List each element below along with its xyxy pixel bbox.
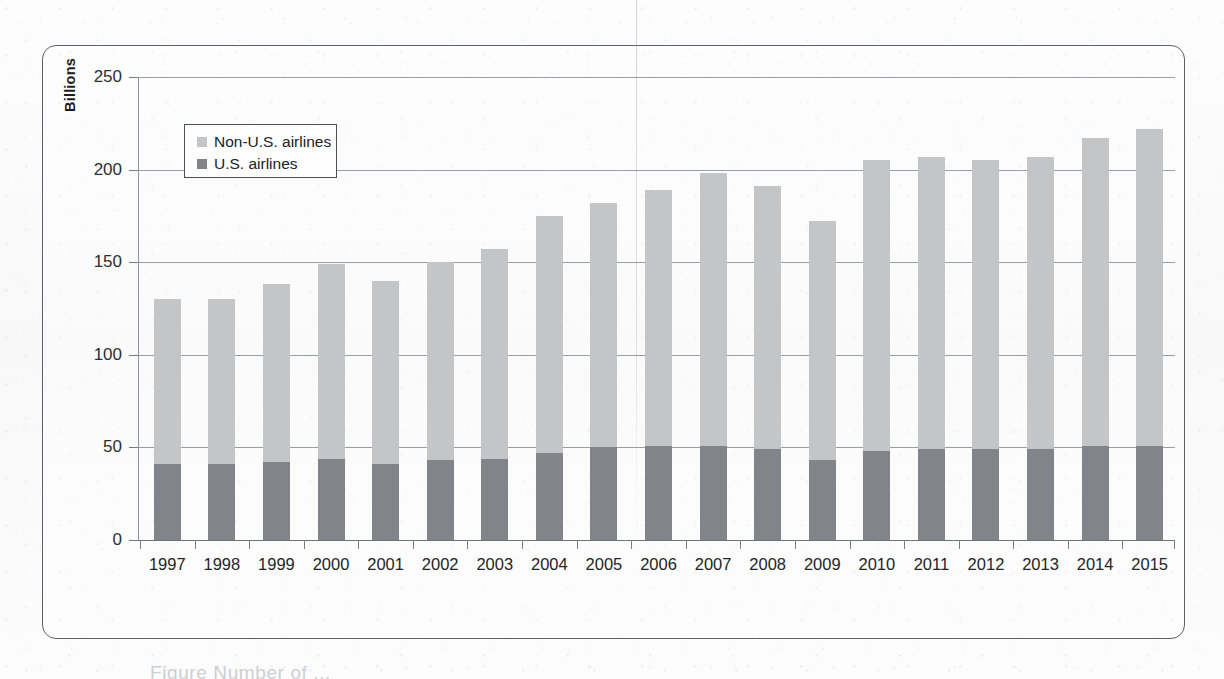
gridline-250 [138, 77, 1175, 78]
bar-segment-us-2003[interactable] [481, 459, 508, 540]
bar-group-2010[interactable] [863, 160, 890, 540]
bar-group-2000[interactable] [318, 264, 345, 540]
x-tick-label-1999: 1999 [258, 555, 295, 574]
bar-segment-non-us-2010[interactable] [863, 160, 890, 451]
bar-group-2014[interactable] [1082, 138, 1109, 540]
x-tick-label-2005: 2005 [586, 555, 623, 574]
x-tick-label-2003: 2003 [476, 555, 513, 574]
y-axis-line [138, 77, 139, 540]
bar-segment-us-2007[interactable] [700, 446, 727, 540]
bar-segment-non-us-1997[interactable] [154, 299, 181, 464]
y-axis-title: Billions [62, 58, 78, 112]
x-tick-label-2002: 2002 [422, 555, 459, 574]
x-tick-mark-2002 [413, 540, 414, 549]
bar-segment-us-2004[interactable] [536, 453, 563, 540]
x-tick-mark-2004 [522, 540, 523, 549]
bar-group-2003[interactable] [481, 249, 508, 540]
bar-group-1998[interactable] [208, 299, 235, 540]
bar-segment-non-us-2005[interactable] [590, 203, 617, 447]
bar-segment-us-2005[interactable] [590, 447, 617, 540]
bar-segment-us-2013[interactable] [1027, 449, 1054, 540]
x-tick-label-2004: 2004 [531, 555, 568, 574]
bar-group-2001[interactable] [372, 281, 399, 540]
bar-segment-non-us-2011[interactable] [918, 157, 945, 450]
bar-segment-non-us-2008[interactable] [754, 186, 781, 449]
bar-segment-non-us-1999[interactable] [263, 284, 290, 462]
bar-segment-us-2001[interactable] [372, 464, 399, 540]
bar-group-1999[interactable] [263, 284, 290, 540]
bar-group-2012[interactable] [972, 160, 999, 540]
x-tick-mark-1998 [195, 540, 196, 549]
x-tick-label-2009: 2009 [804, 555, 841, 574]
bar-group-1997[interactable] [154, 299, 181, 540]
chart-legend: Non-U.S. airlines U.S. airlines [184, 124, 337, 178]
bar-segment-us-2012[interactable] [972, 449, 999, 540]
bar-segment-non-us-2006[interactable] [645, 190, 672, 446]
x-tick-label-2013: 2013 [1022, 555, 1059, 574]
x-tick-mark-2000 [304, 540, 305, 549]
legend-item-non-us: Non-U.S. airlines [197, 131, 336, 153]
figure-caption-cropped: Figure Number of ... [150, 662, 930, 679]
bar-segment-us-2015[interactable] [1136, 446, 1163, 540]
bar-group-2006[interactable] [645, 190, 672, 540]
bar-segment-us-2011[interactable] [918, 449, 945, 540]
bar-group-2015[interactable] [1136, 129, 1163, 540]
x-tick-mark-2005 [577, 540, 578, 549]
bar-segment-non-us-2012[interactable] [972, 160, 999, 449]
bar-segment-us-1999[interactable] [263, 462, 290, 540]
x-tick-mark-2006 [631, 540, 632, 549]
legend-label-non-us: Non-U.S. airlines [214, 133, 331, 151]
bar-group-2002[interactable] [427, 262, 454, 540]
bar-segment-non-us-2001[interactable] [372, 281, 399, 464]
bar-segment-non-us-2014[interactable] [1082, 138, 1109, 445]
bar-group-2005[interactable] [590, 203, 617, 540]
legend-swatch-non-us-icon [197, 137, 207, 147]
x-tick-mark-1999 [249, 540, 250, 549]
legend-item-us: U.S. airlines [197, 153, 336, 175]
x-tick-mark-2008 [740, 540, 741, 549]
y-tick-label-250: 250 [94, 67, 137, 87]
y-tick-label-50: 50 [103, 437, 137, 457]
bar-segment-non-us-2009[interactable] [809, 221, 836, 460]
bar-group-2009[interactable] [809, 221, 836, 540]
x-axis-line [138, 540, 1175, 541]
bar-segment-us-2008[interactable] [754, 449, 781, 540]
x-tick-mark-2010 [850, 540, 851, 549]
bar-segment-non-us-2002[interactable] [427, 262, 454, 460]
x-tick-label-2006: 2006 [640, 555, 677, 574]
x-tick-label-1997: 1997 [149, 555, 186, 574]
x-tick-label-2014: 2014 [1077, 555, 1114, 574]
x-tick-label-2012: 2012 [968, 555, 1005, 574]
bar-group-2013[interactable] [1027, 157, 1054, 540]
x-tick-mark-end [1174, 540, 1175, 549]
bar-segment-us-2010[interactable] [863, 451, 890, 540]
x-tick-mark-1997 [140, 540, 141, 549]
bar-group-2004[interactable] [536, 216, 563, 540]
bar-group-2007[interactable] [700, 173, 727, 540]
bar-segment-us-2006[interactable] [645, 446, 672, 540]
bar-segment-non-us-2000[interactable] [318, 264, 345, 458]
x-tick-mark-2015 [1122, 540, 1123, 549]
bar-segment-non-us-2003[interactable] [481, 249, 508, 458]
bar-segment-us-2002[interactable] [427, 460, 454, 540]
bar-segment-us-1998[interactable] [208, 464, 235, 540]
x-tick-mark-2009 [795, 540, 796, 549]
x-tick-mark-2007 [686, 540, 687, 549]
y-tick-label-150: 150 [94, 252, 137, 272]
bar-segment-non-us-2015[interactable] [1136, 129, 1163, 446]
bar-segment-non-us-2013[interactable] [1027, 157, 1054, 450]
bar-segment-non-us-2007[interactable] [700, 173, 727, 445]
bar-group-2011[interactable] [918, 157, 945, 540]
bar-segment-us-1997[interactable] [154, 464, 181, 540]
bar-segment-us-2009[interactable] [809, 460, 836, 540]
bar-group-2008[interactable] [754, 186, 781, 540]
bar-segment-us-2000[interactable] [318, 459, 345, 540]
x-tick-label-2000: 2000 [313, 555, 350, 574]
x-tick-mark-2012 [959, 540, 960, 549]
bar-segment-non-us-1998[interactable] [208, 299, 235, 464]
bar-segment-us-2014[interactable] [1082, 446, 1109, 540]
x-tick-label-2011: 2011 [914, 555, 949, 574]
stacked-bar-chart: Billions 0501001502002501997199819992000… [0, 0, 1224, 679]
bar-segment-non-us-2004[interactable] [536, 216, 563, 453]
x-tick-mark-2001 [358, 540, 359, 549]
